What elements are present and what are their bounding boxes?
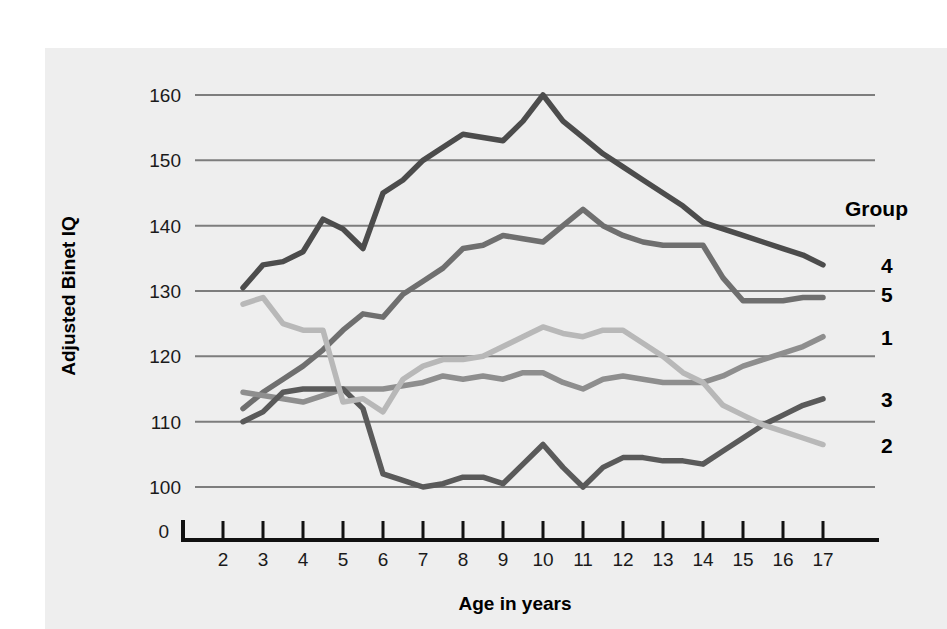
x-tick-label: 3 <box>258 549 269 570</box>
x-tick-label: 16 <box>772 549 793 570</box>
y-tick-label: 160 <box>149 85 181 106</box>
chart-figure: 100110120130140150160 0 2345678910111213… <box>0 0 947 629</box>
y-tick-label: 130 <box>149 281 181 302</box>
series-line-group-5 <box>243 209 823 408</box>
x-tick-label: 14 <box>692 549 714 570</box>
legend-entry-group-4: 4 <box>881 254 893 277</box>
series-line-group-3 <box>243 389 823 487</box>
legend-entry-group-1: 1 <box>881 326 893 349</box>
y-tick-label: 150 <box>149 150 181 171</box>
x-tick-label: 4 <box>298 549 309 570</box>
x-tick-label: 2 <box>218 549 229 570</box>
legend-entry-group-3: 3 <box>881 388 893 411</box>
y-tick-label: 140 <box>149 216 181 237</box>
x-tick-label: 15 <box>732 549 753 570</box>
y-axis-tick-labels: 100110120130140150160 <box>149 85 181 498</box>
x-tick-label: 11 <box>573 549 593 570</box>
x-tick-label: 5 <box>338 549 349 570</box>
y-tick-label: 100 <box>149 477 181 498</box>
x-tick-label: 7 <box>418 549 429 570</box>
x-tick-label: 10 <box>532 549 553 570</box>
chart-plot-panel: 100110120130140150160 0 2345678910111213… <box>45 48 947 629</box>
y-tick-label: 120 <box>149 346 181 367</box>
legend-title: Group <box>845 197 908 220</box>
y-tick-label: 110 <box>151 412 181 433</box>
x-tick-label: 6 <box>378 549 389 570</box>
y-origin-label: 0 <box>158 521 169 542</box>
legend: Group45132 <box>845 197 908 457</box>
x-axis: 0 <box>158 521 877 542</box>
x-tick-label: 17 <box>812 549 833 570</box>
series-line-group-4 <box>243 95 823 288</box>
legend-entry-group-2: 2 <box>881 434 893 457</box>
line-chart: 100110120130140150160 0 2345678910111213… <box>45 48 947 629</box>
x-tick-label: 8 <box>458 549 469 570</box>
x-tick-label: 13 <box>652 549 673 570</box>
x-tick-label: 12 <box>612 549 633 570</box>
x-tick-label: 9 <box>498 549 509 570</box>
y-axis-title: Adjusted Binet IQ <box>58 216 79 375</box>
legend-entry-group-5: 5 <box>881 283 893 306</box>
x-axis-tick-labels: 234567891011121314151617 <box>218 549 834 570</box>
x-axis-title: Age in years <box>459 593 572 614</box>
